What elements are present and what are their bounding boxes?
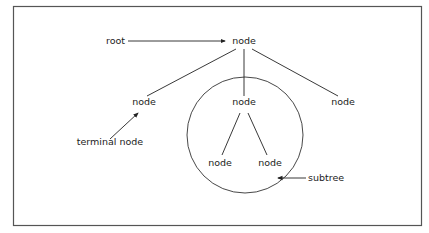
grandchild-right-node: node — [258, 157, 282, 168]
diagram-frame — [14, 7, 422, 226]
terminal-annotation: terminal node — [77, 136, 144, 147]
right-child-node: node — [331, 96, 355, 107]
left-child-node: node — [132, 96, 156, 107]
edge-middle-gl — [222, 113, 240, 155]
edge-middle-gr — [248, 113, 267, 155]
edge-root-left — [147, 49, 236, 96]
middle-child-node: node — [232, 96, 256, 107]
subtree-circle — [187, 77, 303, 193]
tree-diagram: root node node node node node node termi… — [0, 0, 429, 233]
grandchild-left-node: node — [208, 157, 232, 168]
subtree-annotation: subtree — [308, 172, 344, 183]
root-annotation: root — [106, 35, 125, 46]
edge-root-right — [252, 49, 338, 96]
root-node: node — [232, 35, 256, 46]
